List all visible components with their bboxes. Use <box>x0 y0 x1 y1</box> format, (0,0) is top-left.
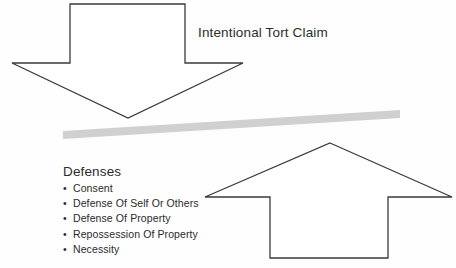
defenses-list: • Consent • Defense Of Self Or Others • … <box>63 181 253 257</box>
list-item-label: Consent <box>73 182 113 194</box>
bullet-icon: • <box>63 181 67 196</box>
bullet-icon: • <box>63 211 67 226</box>
balance-beam-bar <box>63 110 400 139</box>
bullet-icon: • <box>63 242 67 257</box>
bullet-icon: • <box>63 227 67 242</box>
intentional-tort-claim-down-arrow <box>12 4 243 118</box>
list-item-label: Necessity <box>73 243 119 255</box>
list-item: • Consent <box>63 181 253 196</box>
list-item-label: Defense Of Self Or Others <box>73 197 199 209</box>
list-item-label: Defense Of Property <box>73 212 171 224</box>
list-item: • Defense Of Self Or Others <box>63 196 253 211</box>
list-item: • Necessity <box>63 242 253 257</box>
list-item: • Defense Of Property <box>63 211 253 226</box>
diagram-canvas: Intentional Tort Claim Defenses • Consen… <box>0 0 456 268</box>
defenses-group: Defenses • Consent • Defense Of Self Or … <box>63 164 253 257</box>
list-item: • Repossession Of Property <box>63 227 253 242</box>
defenses-heading: Defenses <box>63 164 253 179</box>
intentional-tort-claim-label: Intentional Tort Claim <box>198 25 328 40</box>
bullet-icon: • <box>63 196 67 211</box>
list-item-label: Repossession Of Property <box>73 228 198 240</box>
